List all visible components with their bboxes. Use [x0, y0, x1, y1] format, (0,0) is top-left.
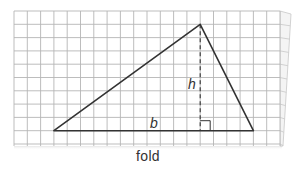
diagram-canvas: h b fold — [0, 0, 296, 175]
fold-label: fold — [0, 148, 296, 164]
height-label: h — [188, 76, 196, 92]
base-label: b — [150, 115, 158, 131]
grid-lines — [14, 11, 280, 146]
